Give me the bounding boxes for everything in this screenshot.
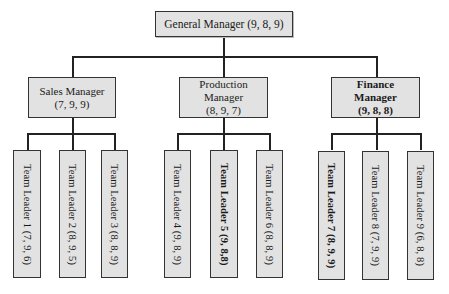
connector-tl4-up <box>177 133 179 150</box>
finance-manager-scores: (9, 8, 8) <box>358 104 393 117</box>
connector-production-bar <box>177 133 270 135</box>
team-leader-1-node: Team Leader 1 (7, 9, 6) <box>13 150 41 278</box>
sales-manager-title: Sales Manager <box>39 85 104 98</box>
production-manager-title-1: Production <box>199 78 247 91</box>
team-leader-1-label: Team Leader 1 (7, 9, 6) <box>21 164 34 265</box>
team-leader-9-node: Team Leader 9 (6, 8, 8) <box>407 151 434 280</box>
team-leader-2-node: Team Leader 2 (8, 9, 5) <box>59 150 86 278</box>
connector-finance-up <box>376 56 378 77</box>
production-manager-title-2: Manager <box>204 91 243 104</box>
team-leader-7-label: Team Leader 7 (8, 9, 9) <box>325 163 338 268</box>
team-leader-5-label: Team Leader 5 (9, 8,8) <box>218 163 231 266</box>
team-leader-3-node: Team Leader 3 (8, 8, 9) <box>101 150 128 278</box>
general-manager-label: General Manager (9, 8, 9) <box>164 18 283 31</box>
connector-tl6-up <box>269 133 271 150</box>
sales-manager-node: Sales Manager (7, 9, 9) <box>28 77 116 118</box>
connector-gm-down <box>223 37 225 56</box>
finance-manager-title-1: Finance <box>357 78 394 91</box>
finance-manager-node: Finance Manager (9, 8, 8) <box>331 77 420 118</box>
finance-manager-title-2: Manager <box>354 91 397 104</box>
production-manager-node: Production Manager (8, 9, 7) <box>179 77 268 118</box>
connector-tl3-up <box>114 133 116 150</box>
team-leader-4-node: Team Leader 4 (9, 8, 9) <box>164 150 191 278</box>
connector-tl7-up <box>331 133 333 150</box>
team-leader-6-node: Team Leader 6 (8, 8, 9) <box>256 150 283 278</box>
connector-managers-bar <box>72 56 377 58</box>
connector-tl1-up <box>27 133 29 150</box>
team-leader-8-label: Team Leader 8 (7, 9, 9) <box>369 165 382 266</box>
connector-tl9-up <box>420 133 422 150</box>
sales-manager-scores: (7, 9, 9) <box>55 98 90 111</box>
connector-sales-up <box>72 56 74 77</box>
team-leader-7-node: Team Leader 7 (8, 9, 9) <box>318 151 345 280</box>
team-leader-6-label: Team Leader 6 (8, 8, 9) <box>263 164 276 265</box>
team-leader-4-label: Team Leader 4 (9, 8, 9) <box>171 164 184 265</box>
connector-sales-bar <box>27 133 115 135</box>
team-leader-8-node: Team Leader 8 (7, 9, 9) <box>362 151 389 280</box>
connector-finance-bar <box>331 133 421 135</box>
general-manager-node: General Manager (9, 8, 9) <box>155 11 293 37</box>
connector-production-up <box>223 56 225 77</box>
team-leader-3-label: Team Leader 3 (8, 8, 9) <box>108 164 121 265</box>
team-leader-5-node: Team Leader 5 (9, 8,8) <box>210 150 238 278</box>
team-leader-2-label: Team Leader 2 (8, 9, 5) <box>66 164 79 265</box>
production-manager-scores: (8, 9, 7) <box>206 104 241 117</box>
team-leader-9-label: Team Leader 9 (6, 8, 8) <box>414 165 427 266</box>
